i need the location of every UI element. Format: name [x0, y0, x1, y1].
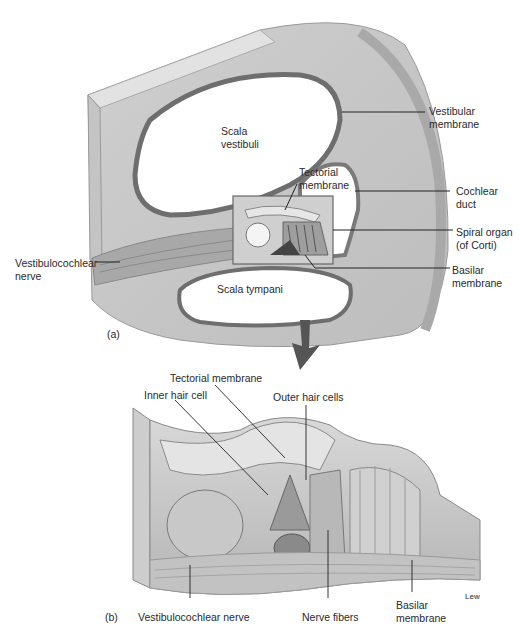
- panel-a-tag: (a): [107, 328, 120, 341]
- scala-tympani-cavity: [179, 268, 351, 326]
- label-tectorial-membrane-b: Tectorial membrane: [170, 372, 262, 385]
- label-outer-hair-cells: Outer hair cells: [273, 391, 344, 404]
- panel-b-tag: (b): [105, 611, 118, 624]
- label-basilar-membrane-b: Basilar membrane: [396, 599, 446, 624]
- cochlea-illustration: [0, 0, 519, 633]
- label-vestibular-membrane: Vestibular membrane: [429, 105, 479, 130]
- artist-signature: Lew: [465, 591, 480, 604]
- label-inner-hair-cell: Inner hair cell: [144, 389, 207, 402]
- label-vestibulocochlear-nerve-b: Vestibulocochlear nerve: [138, 611, 250, 624]
- panel-b-section: [133, 408, 480, 595]
- label-vestibulocochlear-nerve-a: Vestibulocochlear nerve: [15, 257, 97, 282]
- label-nerve-fibers: Nerve fibers: [302, 611, 359, 624]
- label-scala-tympani: Scala tympani: [217, 283, 283, 296]
- panel-a-section: [88, 23, 448, 347]
- label-cochlear-duct: Cochlear duct: [456, 185, 498, 210]
- label-spiral-organ: Spiral organ (of Corti): [456, 226, 513, 251]
- label-basilar-membrane-a: Basilar membrane: [452, 264, 502, 289]
- label-scala-vestibuli: Scala vestibuli: [221, 125, 259, 150]
- label-tectorial-membrane-a: Tectorial membrane: [299, 166, 349, 191]
